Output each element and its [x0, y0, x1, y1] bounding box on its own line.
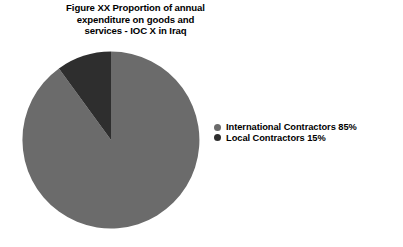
pie-svg [22, 51, 200, 229]
legend-swatch-international-contractors [214, 124, 221, 131]
chart-title: Figure XX Proportion of annual expenditu… [14, 2, 257, 37]
legend-item-international-contractors[interactable]: International Contractors 85% [214, 122, 394, 133]
legend-item-local-contractors[interactable]: Local Contractors 15% [214, 133, 394, 144]
legend-label-local-contractors: Local Contractors 15% [226, 133, 326, 144]
chart-legend: International Contractors 85% Local Cont… [214, 122, 394, 143]
pie-chart-figure: Figure XX Proportion of annual expenditu… [0, 0, 403, 247]
legend-swatch-local-contractors [214, 134, 221, 141]
legend-label-international-contractors: International Contractors 85% [226, 122, 357, 133]
pie-chart-plot-area [22, 51, 200, 229]
